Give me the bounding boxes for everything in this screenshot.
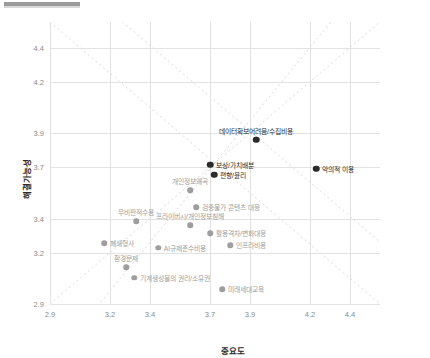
data-point[interactable]	[207, 230, 213, 236]
data-point[interactable]	[187, 188, 193, 194]
data-point[interactable]	[193, 205, 199, 211]
y-tick-label: 3.2	[24, 248, 44, 257]
gridline-vertical	[150, 22, 151, 304]
x-tick-label: 3.4	[145, 310, 155, 319]
x-axis-title: 중요도	[18, 344, 430, 356]
y-tick-label: 3.7	[24, 163, 44, 172]
gridline-horizontal	[50, 133, 380, 134]
data-point[interactable]	[187, 223, 193, 229]
x-tick-label: 4.4	[345, 310, 355, 319]
gridline-vertical	[110, 22, 111, 304]
header-bar-shadow	[4, 6, 80, 8]
data-point[interactable]	[101, 241, 107, 247]
data-point[interactable]	[211, 172, 218, 179]
data-point-label: 인프라비용	[236, 240, 266, 250]
gridline-vertical	[50, 22, 51, 304]
data-point[interactable]	[219, 287, 225, 293]
x-tick-label: 4.2	[305, 310, 315, 319]
gridline-horizontal	[50, 304, 380, 305]
data-point[interactable]	[131, 275, 137, 281]
y-tick-label: 3.9	[24, 129, 44, 138]
data-point[interactable]	[253, 137, 260, 144]
data-point-label: 악의적 이용	[322, 164, 354, 174]
gridline-horizontal	[50, 253, 380, 254]
gridline-vertical	[310, 22, 311, 304]
data-point-label: AI규제준수비용	[164, 243, 206, 253]
data-point[interactable]	[133, 218, 139, 224]
data-point-label: 보상/가치배분	[216, 160, 254, 170]
x-tick-label: 3.2	[105, 310, 115, 319]
gridline-horizontal	[50, 48, 380, 49]
data-point-label: 데이터확보어려움/수집비용	[219, 126, 293, 136]
data-point[interactable]	[227, 242, 233, 248]
y-tick-label: 2.9	[24, 300, 44, 309]
data-point[interactable]	[123, 265, 129, 271]
data-point-label: 개인정보왜곡	[172, 176, 208, 186]
data-point-label: 미래세대교육	[228, 284, 264, 294]
data-point-label: 편향/윤리	[220, 170, 246, 180]
data-point-label: 활용격차/변화대응	[216, 228, 266, 238]
data-point-label: 기계생성물의 권리/소유권	[140, 273, 210, 283]
data-point-label: 프라이버시/개인정보침해	[156, 211, 224, 221]
data-point[interactable]	[155, 245, 161, 251]
gridline-horizontal	[50, 82, 380, 83]
scatter-chart: 중요도 해결가능성 2.93.23.43.73.94.24.42.93.23.4…	[0, 0, 430, 358]
x-tick-label: 3.7	[205, 310, 215, 319]
y-tick-label: 4.2	[24, 77, 44, 86]
x-tick-label: 2.9	[45, 310, 55, 319]
y-tick-label: 3.4	[24, 214, 44, 223]
data-point-label: 폐쇄형사	[110, 238, 134, 248]
x-tick-label: 3.9	[245, 310, 255, 319]
data-point-label: 무비판적수용	[118, 207, 154, 217]
data-point[interactable]	[313, 166, 320, 173]
data-point-label: 환경문제	[114, 253, 138, 263]
y-tick-label: 4.4	[24, 43, 44, 52]
data-point[interactable]	[207, 161, 214, 168]
